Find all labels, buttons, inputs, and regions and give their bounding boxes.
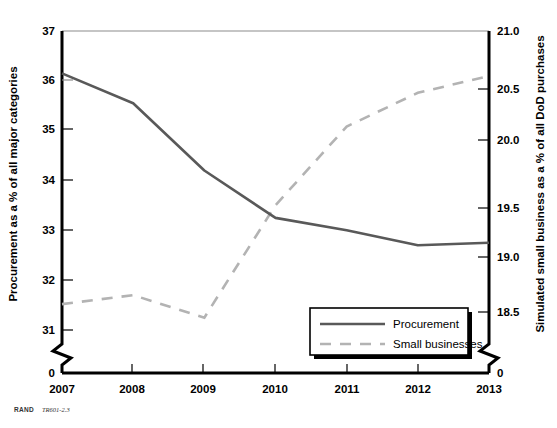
y2tick-label: 20.0 [497,134,519,146]
series-line-procurement [62,73,489,245]
y2tick-label: 20.5 [497,83,520,95]
x-axis [62,364,489,373]
left-axis-break-icon [53,337,71,373]
right-axis-break-icon [480,337,498,373]
ytick-label: 34 [42,174,55,186]
ytick-label: 33 [42,224,55,236]
y2tick-label: 19.5 [497,202,520,214]
xtick-label: 2012 [405,383,431,395]
legend-label-procurement: Procurement [393,318,460,330]
xtick-label: 2008 [119,383,145,395]
chart-figure: 37 36 35 34 33 32 31 0 21.0 20.5 20.0 19… [0,0,557,428]
y2tick-label: 21.0 [497,25,519,37]
chart-svg: 37 36 35 34 33 32 31 0 21.0 20.5 20.0 19… [0,0,557,428]
y2-axis-title: Simulated small business as a % of all D… [534,35,546,332]
chart-legend[interactable]: Procurement Small businesses [310,308,483,359]
xtick-label: 2011 [335,383,361,395]
plot-frame [62,31,489,337]
series-line-small-businesses [62,76,489,318]
xtick-label: 2007 [49,383,75,395]
ytick-label: 36 [42,74,55,86]
y2tick-label: 18.5 [497,306,520,318]
ytick-label: 35 [42,123,55,135]
ytick-label: 37 [42,25,55,37]
right-axis-tick-labels: 21.0 20.5 20.0 19.5 19.0 18.5 0 [497,25,520,379]
source-credit: RAND TR601-2.3 [14,406,70,413]
right-axis-ticks [478,89,489,312]
y2-axis-break-label: 0 [497,367,503,379]
y2tick-label: 19.0 [497,251,519,263]
left-axis-ticks [62,80,73,330]
ytick-label: 32 [42,274,55,286]
xtick-label: 2009 [190,383,216,395]
x-axis-tick-labels: 2007 2008 2009 2010 2011 2012 2013 [49,383,502,395]
xtick-label: 2010 [262,383,288,395]
y-axis-title: Procurement as a % of all major categori… [7,66,19,301]
source-credit-id: TR601-2.3 [42,406,70,413]
ytick-label: 31 [42,324,55,336]
legend-label-small-businesses: Small businesses [393,338,483,350]
source-credit-rand: RAND [14,406,34,413]
y-axis-break-label: 0 [49,367,55,379]
xtick-label: 2013 [476,383,502,395]
left-axis-tick-labels: 37 36 35 34 33 32 31 0 [42,25,55,379]
